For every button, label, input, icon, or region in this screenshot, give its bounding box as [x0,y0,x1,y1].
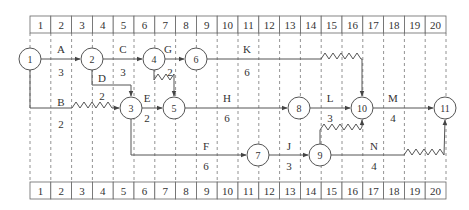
event-node-label: 4 [152,54,157,65]
bottom-scale-label: 8 [183,185,189,197]
time-scaled-network-diagram: 1234567891011121314151617181920 12345678… [0,0,469,210]
event-node-label: 9 [318,150,323,161]
activity-name-d: D [98,72,106,84]
activity-name-a: A [57,43,65,55]
bottom-scale-label: 15 [326,185,338,197]
top-scale-label: 7 [162,19,168,31]
top-scale-label: 19 [409,19,421,31]
bottom-scale-label: 10 [222,185,234,197]
top-scale-label: 11 [243,19,254,31]
activity-duration-a: 3 [58,66,64,78]
event-node-label: 8 [297,103,302,114]
activity-name-m: M [388,92,398,104]
activity-duration-j: 3 [286,160,292,172]
activity-duration-b: 2 [58,118,64,130]
activity-duration-l: 3 [327,112,333,124]
activity-name-h: H [223,92,231,104]
top-scale-label: 12 [264,19,275,31]
activity-name-b: B [57,96,64,108]
event-node-label: 6 [194,54,199,65]
top-scale-label: 5 [121,19,127,31]
top-scale-label: 16 [347,19,359,31]
activity-name-f: F [203,140,209,152]
top-scale-label: 6 [142,19,148,31]
activity-duration-g: 2 [167,66,173,78]
activity-name-g: G [164,43,172,55]
event-node-label: 3 [129,103,134,114]
event-node-label: 2 [90,54,95,65]
event-node-label: 5 [172,103,177,114]
event-nodes: 1246358101179 [19,48,456,166]
top-scale-label: 14 [305,19,317,31]
top-scale-label: 13 [285,19,297,31]
activity-name-j: J [287,140,292,152]
bottom-scale-label: 9 [204,185,210,197]
bottom-scale-label: 2 [58,185,64,197]
bottom-scale-label: 16 [347,185,359,197]
top-scale-label: 4 [100,19,106,31]
bottom-scale-label: 1 [38,185,44,197]
arrow-f [131,119,246,155]
event-node-label: 7 [256,150,261,161]
bottom-scale-label: 18 [389,185,401,197]
bottom-scale-label: 17 [368,185,380,197]
top-scale-label: 10 [222,19,234,31]
event-node-label: 10 [357,103,367,114]
activity-duration-f: 6 [203,160,209,172]
arrow-n [331,120,445,155]
bottom-scale-label: 19 [409,185,421,197]
activity-duration-n: 4 [371,160,377,172]
top-scale-label: 20 [430,19,442,31]
activity-duration-d: 2 [99,90,105,102]
activity-duration-k: 6 [244,66,250,78]
top-scale-label: 8 [183,19,189,31]
bottom-scale-label: 4 [100,185,106,197]
activity-duration-h: 6 [224,112,230,124]
bottom-scale-label: 20 [430,185,442,197]
bottom-scale-label: 13 [285,185,297,197]
top-scale-label: 15 [326,19,338,31]
activity-duration-e: 2 [144,112,150,124]
bottom-scale-label: 12 [264,185,275,197]
top-scale-label: 1 [38,19,44,31]
event-node-label: 11 [440,103,450,114]
arrow-k [207,53,362,96]
activity-duration-c: 3 [120,66,126,78]
bottom-scale-label: 3 [79,185,85,197]
bottom-scale-label: 6 [142,185,148,197]
timescale-top: 1234567891011121314151617181920 [30,16,446,33]
top-scale-label: 9 [204,19,210,31]
bottom-scale-label: 14 [305,185,317,197]
activity-name-e: E [144,92,151,104]
top-scale-label: 18 [389,19,401,31]
activity-duration-m: 4 [390,112,396,124]
activity-name-n: N [370,140,378,152]
bottom-scale-label: 5 [121,185,127,197]
event-node-label: 1 [28,54,33,65]
bottom-scale-label: 7 [162,185,168,197]
activity-name-c: C [119,43,126,55]
top-scale-label: 3 [79,19,85,31]
timescale-bottom: 1234567891011121314151617181920 [30,182,446,199]
top-scale-label: 2 [58,19,64,31]
top-scale-label: 17 [368,19,380,31]
activity-name-l: L [327,92,334,104]
activity-name-k: K [243,43,251,55]
bottom-scale-label: 11 [243,185,254,197]
